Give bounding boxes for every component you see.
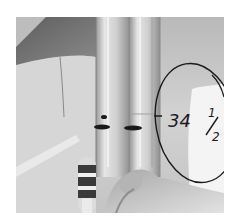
tube-left [96,17,130,177]
annotation-fraction-den: 2 [212,130,220,144]
marker-band-3 [78,190,96,198]
mark-dot-left [101,115,107,119]
tube-right [130,17,160,177]
marker-stem [82,198,92,213]
annotation-number: 34 [168,110,191,131]
image-canvas: 34 1 2 34 1/2 [0,0,239,223]
photo-illustration: 34 1 2 [16,17,224,213]
striped-marker [78,157,96,213]
photograph: 34 1 2 34 1/2 [16,17,224,213]
marker-band-1 [78,165,96,173]
marker-band-2 [78,177,96,186]
marker-white-2 [78,186,96,190]
annotation-fraction-num: 1 [208,106,216,120]
mark-dash-left [94,125,110,130]
marker-white-1 [78,173,96,177]
mark-dash-right [124,126,142,131]
